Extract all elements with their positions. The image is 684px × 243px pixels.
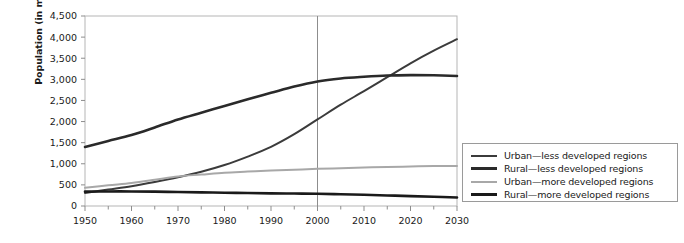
chart-figure: Population (in millions) 05001,0001,5002… — [0, 0, 684, 243]
x-axis-tick-label: 2030 — [445, 215, 469, 226]
legend-label: Urban—less developed regions — [504, 150, 647, 161]
x-axis-tick-label: 1950 — [73, 215, 97, 226]
y-axis-tick-label: 0 — [71, 200, 77, 211]
legend-item[interactable]: Urban—less developed regions — [471, 149, 677, 162]
legend-swatch-rural-more-developed — [471, 193, 497, 196]
x-axis-tick-label: 2000 — [305, 215, 329, 226]
legend-item[interactable]: Rural—less developed regions — [471, 162, 677, 175]
plot-frame — [85, 16, 457, 206]
x-axis-tick-label: 1960 — [119, 215, 143, 226]
legend-item[interactable]: Rural—more developed regions — [471, 188, 677, 201]
legend-swatch-urban-less-developed — [471, 155, 497, 157]
y-axis-tick-label: 4,500 — [50, 10, 77, 21]
x-axis-tick-label: 1980 — [212, 215, 236, 226]
y-axis-tick-label: 3,500 — [50, 53, 77, 64]
line-chart-plot: 05001,0001,5002,0002,5003,0003,5004,0004… — [0, 0, 684, 243]
legend-swatch-rural-less-developed — [471, 167, 497, 170]
x-axis-tick-label: 2020 — [398, 215, 422, 226]
x-axis-tick-label: 1990 — [259, 215, 283, 226]
legend-label: Rural—less developed regions — [504, 163, 643, 174]
y-axis-tick-label: 1,500 — [50, 137, 77, 148]
y-axis-tick-label: 3,000 — [50, 74, 77, 85]
legend-label: Urban—more developed regions — [504, 176, 653, 187]
x-axis-tick-label: 1970 — [166, 215, 190, 226]
y-axis-tick-label: 4,000 — [50, 32, 77, 43]
legend-item[interactable]: Urban—more developed regions — [471, 175, 677, 188]
y-axis-tick-label: 2,000 — [50, 116, 77, 127]
chart-legend: Urban—less developed regions Rural—less … — [462, 143, 678, 202]
legend-label: Rural—more developed regions — [504, 189, 649, 200]
y-axis-tick-label: 2,500 — [50, 95, 77, 106]
legend-swatch-urban-more-developed — [471, 181, 497, 183]
x-axis-tick-label: 2010 — [352, 215, 376, 226]
y-axis-tick-label: 500 — [59, 179, 77, 190]
y-axis-tick-label: 1,000 — [50, 158, 77, 169]
